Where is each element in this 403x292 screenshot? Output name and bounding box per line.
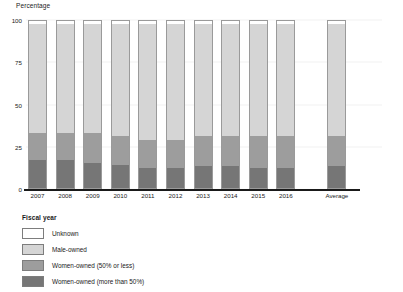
legend-item-label: Women-owned (more than 50%)	[52, 278, 144, 285]
stacked-bar[interactable]	[111, 20, 130, 189]
stacked-bar[interactable]	[276, 20, 295, 189]
segment-women-owned-more-than-50[interactable]	[57, 160, 74, 188]
bar-column-2014[interactable]: 2014	[221, 20, 240, 189]
stacked-bar[interactable]	[327, 20, 346, 189]
legend-item-label: Unknown	[52, 230, 79, 237]
bars-group: 2007200820092010201120122013201420152016…	[26, 20, 346, 189]
segment-male-owned[interactable]	[29, 24, 46, 133]
x-axis-tick-label: 2009	[86, 192, 100, 199]
legend-item[interactable]: Male-owned	[22, 242, 144, 257]
x-axis-tick-label: 2010	[113, 192, 127, 199]
stacked-bar[interactable]	[138, 20, 157, 189]
bar-column-2011[interactable]: 2011	[138, 20, 157, 189]
segment-women-owned-more-than-50[interactable]	[84, 163, 101, 188]
bar-column-average[interactable]: Average	[327, 20, 346, 189]
stacked-bar-chart: Percentage 0255075100 200720082009201020…	[0, 0, 403, 292]
bar-column-2013[interactable]: 2013	[194, 20, 213, 189]
x-axis-line	[24, 189, 360, 191]
segment-male-owned[interactable]	[277, 24, 294, 136]
legend-swatch-icon	[22, 260, 44, 271]
segment-women-owned-more-than-50[interactable]	[277, 168, 294, 188]
legend-item[interactable]: Women-owned (more than 50%)	[22, 274, 144, 289]
segment-male-owned[interactable]	[195, 24, 212, 136]
stacked-bar[interactable]	[194, 20, 213, 189]
x-axis-tick-label: 2007	[31, 192, 45, 199]
segment-male-owned[interactable]	[112, 24, 129, 136]
y-axis-tick-label: 75	[15, 59, 26, 66]
legend-item-label: Women-owned (50% or less)	[52, 262, 134, 269]
segment-women-owned-50-or-less[interactable]	[84, 133, 101, 163]
segment-women-owned-more-than-50[interactable]	[167, 168, 184, 188]
segment-women-owned-50-or-less[interactable]	[167, 140, 184, 168]
y-axis-tick-label: 100	[12, 17, 26, 24]
segment-women-owned-50-or-less[interactable]	[328, 136, 345, 166]
segment-women-owned-50-or-less[interactable]	[29, 133, 46, 160]
chart-legend: UnknownMale-ownedWomen-owned (50% or les…	[22, 226, 144, 290]
segment-male-owned[interactable]	[222, 24, 239, 136]
segment-women-owned-50-or-less[interactable]	[222, 136, 239, 166]
segment-women-owned-more-than-50[interactable]	[112, 165, 129, 188]
segment-women-owned-50-or-less[interactable]	[195, 136, 212, 166]
segment-women-owned-more-than-50[interactable]	[29, 160, 46, 188]
segment-women-owned-50-or-less[interactable]	[139, 140, 156, 168]
segment-women-owned-more-than-50[interactable]	[195, 166, 212, 188]
x-axis-title: Fiscal year	[22, 214, 57, 221]
y-axis-tick-label: 50	[15, 101, 26, 108]
segment-women-owned-50-or-less[interactable]	[112, 136, 129, 164]
legend-swatch-icon	[22, 228, 44, 239]
legend-swatch-icon	[22, 244, 44, 255]
segment-male-owned[interactable]	[139, 24, 156, 139]
x-axis-tick-label: 2011	[141, 192, 154, 199]
segment-women-owned-more-than-50[interactable]	[328, 166, 345, 188]
segment-women-owned-more-than-50[interactable]	[139, 168, 156, 188]
stacked-bar[interactable]	[166, 20, 185, 189]
stacked-bar[interactable]	[83, 20, 102, 189]
bar-column-2016[interactable]: 2016	[276, 20, 295, 189]
stacked-bar[interactable]	[56, 20, 75, 189]
segment-women-owned-50-or-less[interactable]	[277, 136, 294, 168]
bar-column-2007[interactable]: 2007	[28, 20, 47, 189]
x-axis-tick-label: 2014	[224, 192, 238, 199]
legend-swatch-icon	[22, 276, 44, 287]
segment-male-owned[interactable]	[250, 24, 267, 136]
legend-item[interactable]: Unknown	[22, 226, 144, 241]
segment-male-owned[interactable]	[167, 24, 184, 139]
bar-column-2009[interactable]: 2009	[83, 20, 102, 189]
x-axis-tick-label: 2016	[279, 192, 293, 199]
segment-women-owned-50-or-less[interactable]	[250, 136, 267, 168]
plot-area: 0255075100 20072008200920102011201220132…	[26, 20, 382, 189]
bar-column-2012[interactable]: 2012	[166, 20, 185, 189]
y-axis-title: Percentage	[16, 2, 50, 9]
stacked-bar[interactable]	[249, 20, 268, 189]
segment-women-owned-more-than-50[interactable]	[222, 166, 239, 188]
bar-column-2010[interactable]: 2010	[111, 20, 130, 189]
bar-column-2008[interactable]: 2008	[56, 20, 75, 189]
segment-women-owned-50-or-less[interactable]	[57, 133, 74, 160]
x-axis-tick-label: 2015	[251, 192, 265, 199]
y-axis-tick-label: 25	[15, 143, 26, 150]
segment-male-owned[interactable]	[328, 24, 345, 136]
x-axis-tick-label: 2013	[196, 192, 210, 199]
bar-column-2015[interactable]: 2015	[249, 20, 268, 189]
segment-male-owned[interactable]	[57, 24, 74, 133]
average-label: Average	[325, 192, 348, 199]
stacked-bar[interactable]	[221, 20, 240, 189]
stacked-bar[interactable]	[28, 20, 47, 189]
x-axis-tick-label: 2008	[58, 192, 72, 199]
legend-item-label: Male-owned	[52, 246, 87, 253]
segment-women-owned-more-than-50[interactable]	[250, 168, 267, 188]
legend-item[interactable]: Women-owned (50% or less)	[22, 258, 144, 273]
segment-male-owned[interactable]	[84, 24, 101, 133]
x-axis-tick-label: 2012	[169, 192, 183, 199]
